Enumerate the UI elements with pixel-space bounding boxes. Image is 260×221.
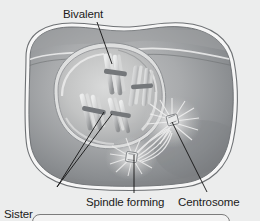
caption-box xyxy=(32,214,230,221)
label-spindle-forming: Spindle forming xyxy=(86,196,164,209)
centriole-pair-lower xyxy=(125,151,137,162)
centrosome-upper xyxy=(166,114,179,126)
figure-container: Bivalent Sister chromatids Spindle formi… xyxy=(0,0,260,221)
centriole-pair-upper xyxy=(166,114,179,126)
label-bivalent: Bivalent xyxy=(63,8,103,21)
centrosome-lower xyxy=(125,151,137,162)
label-centrosome: Centrosome xyxy=(178,196,240,209)
